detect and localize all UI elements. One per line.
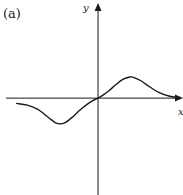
y-axis-arrow-icon: [95, 3, 102, 11]
x-axis-label: x: [178, 106, 183, 117]
panel-label: (a): [3, 6, 21, 21]
y-axis-label: y: [82, 2, 89, 13]
chart: (a) y x: [0, 0, 183, 195]
